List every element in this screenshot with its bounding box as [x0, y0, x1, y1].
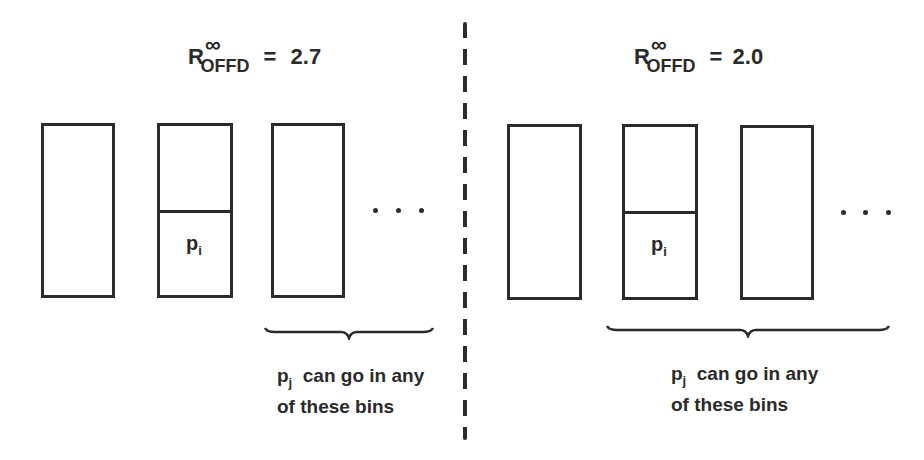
bin-fill-divider — [160, 210, 230, 213]
offd-subscript: OFFD — [201, 56, 250, 76]
item-p-i: pi — [651, 233, 667, 259]
bin-3 — [740, 125, 814, 300]
dashed-separator — [463, 22, 467, 440]
equals-sign: = — [264, 44, 277, 69]
ratio-value: 2.0 — [733, 44, 764, 69]
bin-fill-divider — [625, 211, 695, 214]
left-ratio-formula: R∞OFFD= 2.7 — [188, 44, 321, 70]
left-caption: pj can go in any of these bins — [277, 364, 424, 419]
bin-2: pi — [622, 124, 698, 300]
infinity-superscript: ∞ — [651, 32, 667, 57]
ratio-value: 2.7 — [291, 44, 322, 69]
right-ratio-formula: R∞OFFD= 2.0 — [634, 44, 763, 70]
bin-2: pi — [157, 123, 233, 298]
brace-icon — [605, 318, 891, 338]
bin-1 — [507, 124, 582, 300]
offd-subscript: OFFD — [647, 56, 696, 76]
item-p-i: pi — [186, 232, 202, 258]
bin-3 — [271, 123, 345, 298]
bin-1 — [41, 123, 115, 298]
brace-icon — [263, 320, 435, 340]
equals-sign: = — [710, 44, 723, 69]
right-caption: pj can go in any of these bins — [671, 362, 818, 417]
infinity-superscript: ∞ — [205, 32, 221, 57]
